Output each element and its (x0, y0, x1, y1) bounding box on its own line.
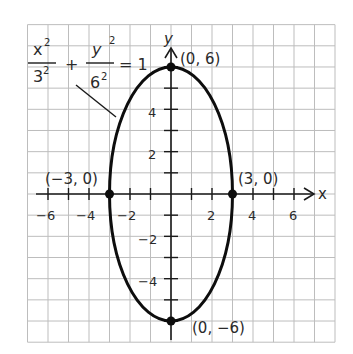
eq-x-numerator: x (33, 40, 42, 59)
eq-equals-one: = 1 (119, 55, 148, 74)
x-tick-label: −6 (36, 208, 55, 223)
x-tick-label: 2 (207, 208, 215, 223)
point-covertex-right (228, 190, 237, 199)
point-label-right: (3, 0) (238, 170, 278, 188)
graph-canvas: x y −6 −4 −2 2 4 6 4 2 −2 −4 (0, 6) (3, … (0, 0, 353, 354)
eq-superscript: 2 (109, 35, 115, 46)
y-tick-label: 2 (148, 147, 156, 162)
y-axis-label: y (163, 30, 174, 48)
x-tick-label: −4 (76, 208, 95, 223)
y-tick-label: −4 (138, 274, 157, 289)
point-label-left: (−3, 0) (45, 170, 98, 188)
y-tick-label: 4 (148, 105, 156, 120)
point-covertex-left (105, 190, 114, 199)
ellipse-graph: x y −6 −4 −2 2 4 6 4 2 −2 −4 (0, 6) (3, … (0, 0, 353, 354)
y-tick-label: −2 (138, 232, 157, 247)
point-vertex-bottom (167, 317, 176, 326)
eq-superscript: 2 (44, 37, 50, 48)
eq-plus: + (65, 55, 78, 74)
point-label-bottom: (0, −6) (192, 319, 245, 337)
x-tick-label: 4 (248, 208, 256, 223)
ellipse-equation: x 2 3 2 + y 2 6 2 = 1 (26, 30, 148, 92)
x-tick-label: 6 (289, 208, 297, 223)
eq-superscript: 2 (43, 65, 49, 76)
x-tick-label: −2 (117, 208, 136, 223)
axes (36, 48, 314, 340)
eq-y-numerator: y (91, 40, 102, 59)
eq-superscript: 2 (101, 71, 107, 82)
x-axis-label: x (318, 185, 327, 203)
eq-x-denominator: 3 (33, 67, 43, 86)
eq-y-denominator: 6 (90, 73, 100, 92)
point-label-top: (0, 6) (180, 50, 220, 68)
point-vertex-top (167, 63, 176, 72)
